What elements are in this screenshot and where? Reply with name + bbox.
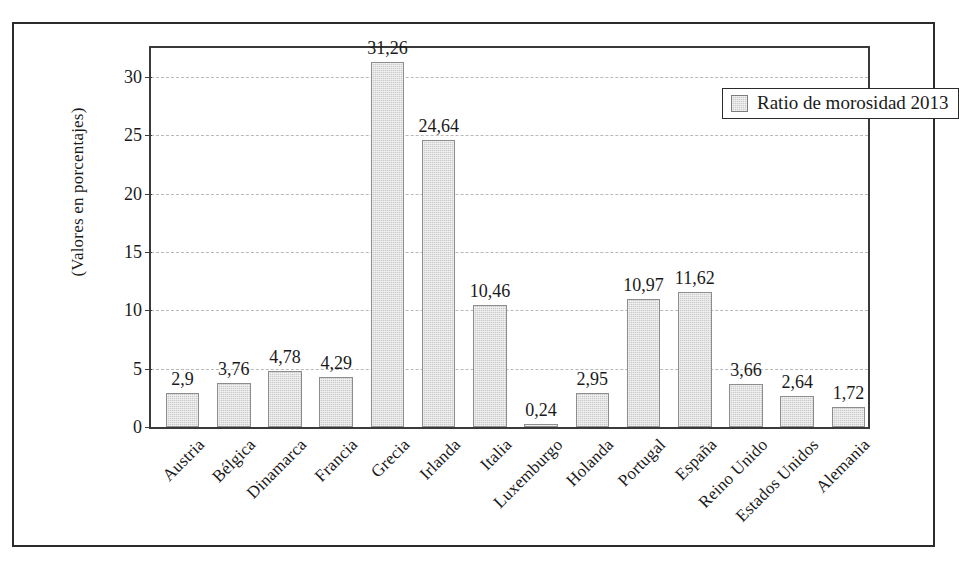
figure-frame: (Valores en porcentajes) 051015202530 2,…: [12, 22, 935, 547]
bar-group[interactable]: 10,46: [473, 48, 507, 427]
bar-value-label: 3,76: [218, 360, 250, 378]
x-axis-label: Irlanda: [416, 435, 465, 484]
bar[interactable]: [780, 396, 814, 427]
bar-group[interactable]: 4,29: [319, 48, 353, 427]
bar[interactable]: [422, 140, 456, 427]
bar-value-label: 0,24: [525, 401, 557, 419]
bar-value-label: 11,62: [675, 269, 715, 287]
bar[interactable]: [166, 393, 200, 427]
chart-legend[interactable]: Ratio de morosidad 2013: [722, 88, 959, 119]
bar[interactable]: [832, 407, 866, 427]
bar[interactable]: [576, 393, 610, 427]
y-tick-label: 5: [133, 358, 142, 379]
bar[interactable]: [627, 299, 661, 427]
bar-group[interactable]: 2,9: [166, 48, 200, 427]
x-axis-label: Italia: [476, 435, 516, 475]
bar[interactable]: [371, 62, 405, 427]
bar-group[interactable]: 10,97: [627, 48, 661, 427]
bar-value-label: 10,46: [470, 282, 511, 300]
x-axis-label: Grecia: [367, 435, 414, 482]
y-tick-label: 20: [124, 183, 142, 204]
bar[interactable]: [319, 377, 353, 427]
y-tick-mark: [145, 427, 152, 428]
bar-group[interactable]: 31,26: [371, 48, 405, 427]
bar-value-label: 24,64: [418, 117, 459, 135]
bar-value-label: 4,78: [269, 348, 301, 366]
y-tick-label: 25: [124, 125, 142, 146]
bar[interactable]: [678, 292, 712, 428]
bar-group[interactable]: 11,62: [678, 48, 712, 427]
y-tick-label: 30: [124, 67, 142, 88]
y-axis-title: (Valores en porcentajes): [68, 42, 88, 342]
bar[interactable]: [524, 424, 558, 427]
legend-swatch-icon: [731, 95, 748, 112]
bar-value-label: 10,97: [623, 276, 664, 294]
bar[interactable]: [729, 384, 763, 427]
bar-group[interactable]: 4,78: [268, 48, 302, 427]
bar-group[interactable]: 24,64: [422, 48, 456, 427]
bar[interactable]: [217, 383, 251, 427]
x-axis-label: Alemania: [813, 435, 875, 497]
bar-group[interactable]: 2,95: [576, 48, 610, 427]
bar-value-label: 3,66: [730, 361, 762, 379]
bar[interactable]: [473, 305, 507, 427]
bar-value-label: 2,9: [171, 370, 194, 388]
y-tick-label: 15: [124, 242, 142, 263]
x-axis-labels: AustriaBélgicaDinamarcaFranciaGreciaIrla…: [149, 429, 870, 559]
x-axis-label: Holanda: [563, 435, 619, 491]
bar-value-label: 2,95: [577, 370, 609, 388]
bar[interactable]: [268, 371, 302, 427]
x-axis-label: Portugal: [614, 435, 670, 491]
plot-area: 051015202530 2,93,764,784,2931,2624,6410…: [149, 46, 870, 429]
x-axis-label: España: [671, 435, 721, 485]
bar-group[interactable]: 0,24: [524, 48, 558, 427]
bar-value-label: 2,64: [781, 373, 813, 391]
y-tick-label: 10: [124, 300, 142, 321]
x-axis-label: Austria: [158, 435, 209, 486]
bar-group[interactable]: 3,76: [217, 48, 251, 427]
bar-value-label: 1,72: [833, 384, 865, 402]
bar-value-label: 31,26: [367, 39, 408, 57]
y-tick-label: 0: [133, 417, 142, 438]
x-axis-label: Francia: [311, 435, 362, 486]
bar-value-label: 4,29: [320, 354, 352, 372]
legend-label: Ratio de morosidad 2013: [757, 92, 949, 114]
